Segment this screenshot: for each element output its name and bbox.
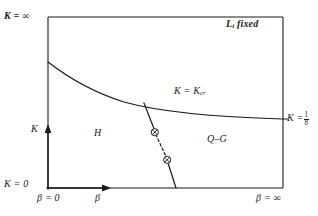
label-k-infinity: K = ∞ <box>4 11 30 21</box>
label-k-one-eighth: K =18 <box>287 112 309 127</box>
label-k-critical-subscript: cr <box>200 89 206 96</box>
label-k-zero: K = 0 <box>4 179 28 189</box>
beta-axis-arrow <box>48 185 111 192</box>
critical-point-upper-marker <box>151 129 158 136</box>
region-label-h-text: H <box>94 127 101 138</box>
phase-diagram-canvas <box>0 0 318 216</box>
label-beta-infinity: β = ∞ <box>256 193 281 203</box>
axis-label-k: K <box>31 124 38 134</box>
region-label-h: H <box>94 128 101 138</box>
region-label-qg: Q–G <box>207 134 227 144</box>
transition-line-dashed-segment <box>156 135 166 157</box>
axis-label-beta-text: β <box>95 192 100 203</box>
label-lt-fixed: Lt fixed <box>226 19 258 30</box>
label-beta-zero-text: β = 0 <box>37 192 60 203</box>
label-k-one-eighth-lhs: K = <box>287 112 304 123</box>
label-beta-zero: β = 0 <box>37 193 60 203</box>
axis-label-beta: β <box>95 193 100 203</box>
critical-point-lower-marker <box>164 156 171 163</box>
label-k-zero-text: K = 0 <box>4 178 28 189</box>
transition-line-lower-segment <box>168 164 176 189</box>
transition-line-upper-segment <box>144 103 155 130</box>
fraction-denominator: 8 <box>304 120 310 127</box>
axis-label-k-text: K <box>31 123 38 134</box>
label-k-critical-lhs: K = K <box>174 85 200 96</box>
label-lt-fixed-word: fixed <box>237 18 259 29</box>
region-label-qg-text: Q–G <box>207 133 227 144</box>
origin-point <box>47 187 50 190</box>
label-k-infinity-text: K = ∞ <box>4 10 30 21</box>
critical-curve-kcr <box>48 62 283 119</box>
fraction-one-eighth: 18 <box>304 112 310 127</box>
label-k-critical: K = Kcr <box>174 86 206 97</box>
phase-diagram-figure: K = ∞ Lt fixed K = Kcr K =18 H Q–G K K =… <box>0 0 318 216</box>
label-lt-subscript: t <box>232 22 234 29</box>
label-beta-infinity-text: β = ∞ <box>256 192 281 203</box>
k-axis-arrow <box>45 124 52 188</box>
